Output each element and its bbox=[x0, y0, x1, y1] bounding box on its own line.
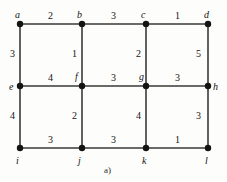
edge-weight-jk: 3 bbox=[111, 135, 116, 145]
vertex-label-i: i bbox=[16, 156, 19, 166]
edge-weight-gh: 3 bbox=[175, 73, 180, 83]
edge-weight-ab: 2 bbox=[48, 11, 53, 21]
edge-layer bbox=[20, 24, 208, 148]
edge-weight-ij: 3 bbox=[48, 135, 53, 145]
graph-node-i bbox=[17, 145, 23, 151]
edge-weight-fg: 3 bbox=[111, 73, 116, 83]
graph-node-d bbox=[205, 21, 211, 27]
graph-node-a bbox=[17, 21, 23, 27]
edge-weight-kl: 1 bbox=[175, 135, 180, 145]
graph-figure: 23143333131254243abcdefghijkl a) bbox=[0, 0, 227, 182]
graph-node-l bbox=[205, 145, 211, 151]
figure-caption: a) bbox=[104, 166, 111, 175]
edge-weight-bc: 3 bbox=[111, 11, 116, 21]
vertex-label-l: l bbox=[205, 156, 208, 166]
vertex-label-j: j bbox=[78, 156, 81, 166]
vertex-label-b: b bbox=[77, 10, 82, 20]
vertex-label-k: k bbox=[142, 156, 146, 166]
edge-weight-gk: 4 bbox=[136, 111, 141, 121]
graph-canvas bbox=[0, 0, 227, 182]
edge-weight-cd: 1 bbox=[175, 11, 180, 21]
edge-weight-ae: 3 bbox=[10, 49, 15, 59]
edge-weight-cg: 2 bbox=[136, 49, 141, 59]
vertex-label-f: f bbox=[75, 72, 78, 82]
edge-weight-bf: 1 bbox=[72, 49, 77, 59]
vertex-label-e: e bbox=[9, 82, 13, 92]
graph-node-h bbox=[205, 83, 211, 89]
edge-weight-dh: 5 bbox=[196, 49, 201, 59]
vertex-label-h: h bbox=[213, 82, 218, 92]
graph-node-f bbox=[79, 83, 85, 89]
vertex-label-d: d bbox=[204, 10, 209, 20]
graph-node-j bbox=[79, 145, 85, 151]
graph-node-b bbox=[79, 21, 85, 27]
graph-node-c bbox=[143, 21, 149, 27]
graph-node-e bbox=[17, 83, 23, 89]
edge-weight-fj: 2 bbox=[72, 111, 77, 121]
vertex-label-a: a bbox=[15, 10, 20, 20]
edge-weight-ei: 4 bbox=[10, 111, 15, 121]
graph-node-g bbox=[143, 83, 149, 89]
edge-weight-ef: 4 bbox=[48, 73, 53, 83]
vertex-label-c: c bbox=[141, 10, 145, 20]
graph-node-k bbox=[143, 145, 149, 151]
edge-weight-hl: 3 bbox=[196, 111, 201, 121]
vertex-label-g: g bbox=[139, 72, 144, 82]
